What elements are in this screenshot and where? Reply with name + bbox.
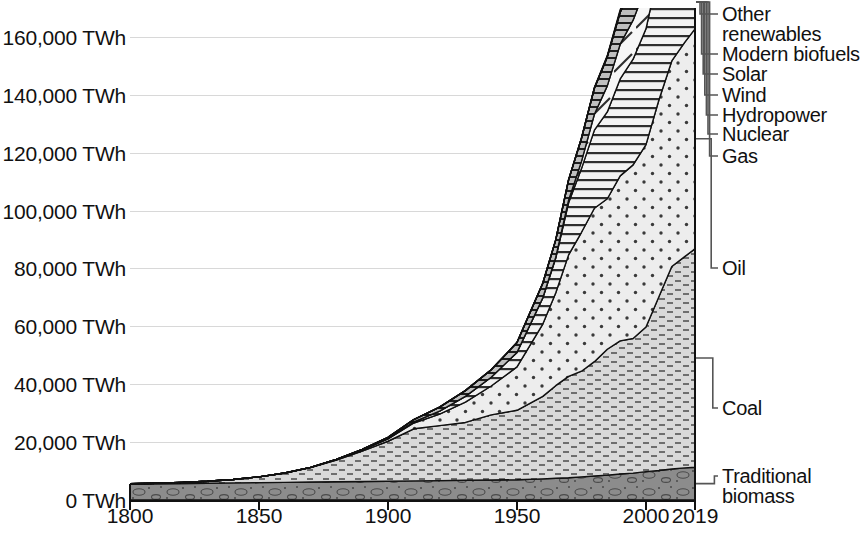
x-axis-line — [129, 500, 696, 502]
legend-label-line1: Solar — [722, 64, 767, 84]
plot-area — [130, 8, 695, 500]
y-axis-tick-label: 140,000 TWh — [3, 84, 127, 105]
legend-label-nuclear: Nuclear — [722, 124, 789, 144]
legend: OtherrenewablesModern biofuelsSolarWindH… — [696, 0, 868, 534]
legend-label-other-renewables: Otherrenewables — [722, 4, 821, 44]
x-axis-tick — [645, 502, 647, 510]
legend-label-hydropower: Hydropower — [722, 105, 827, 125]
chart-root: 0 TWh20,000 TWh40,000 TWh60,000 TWh80,00… — [0, 0, 868, 534]
y-axis-tick-label: 100,000 TWh — [3, 200, 127, 221]
x-axis-tick — [387, 502, 389, 510]
x-axis-tick — [516, 502, 518, 510]
legend-label-line1: Oil — [722, 258, 746, 278]
legend-label-line1: Hydropower — [722, 105, 827, 125]
legend-label-line1: Other — [722, 4, 821, 24]
stacked-area-svg — [130, 8, 695, 500]
y-axis-tick-label: 60,000 TWh — [14, 316, 126, 337]
y-axis: 0 TWh20,000 TWh40,000 TWh60,000 TWh80,00… — [0, 0, 126, 534]
legend-label-line2: renewables — [722, 24, 821, 44]
legend-label-line1: Coal — [722, 398, 762, 418]
legend-label-line1: Modern biofuels — [722, 44, 860, 64]
legend-label-solar: Solar — [722, 64, 767, 84]
y-axis-tick-label: 20,000 TWh — [14, 432, 126, 453]
legend-label-wind: Wind — [722, 85, 766, 105]
legend-label-oil: Oil — [722, 258, 746, 278]
x-axis-tick — [129, 502, 131, 510]
x-axis-tick — [258, 502, 260, 510]
legend-label-line1: Wind — [722, 85, 766, 105]
legend-label-coal: Coal — [722, 398, 762, 418]
legend-label-gas: Gas — [722, 146, 758, 166]
legend-label-line2: biomass — [722, 486, 811, 506]
y-axis-tick-label: 160,000 TWh — [3, 26, 127, 47]
legend-label-line1: Nuclear — [722, 124, 789, 144]
legend-label-traditional-biomass: Traditionalbiomass — [722, 466, 811, 506]
legend-label-line1: Gas — [722, 146, 758, 166]
legend-label-line1: Traditional — [722, 466, 811, 486]
y-axis-tick-label: 80,000 TWh — [14, 258, 126, 279]
x-axis-tick — [694, 502, 696, 510]
y-axis-tick-label: 40,000 TWh — [14, 374, 126, 395]
y-axis-tick-label: 120,000 TWh — [3, 142, 127, 163]
legend-label-modern-biofuels: Modern biofuels — [722, 44, 860, 64]
